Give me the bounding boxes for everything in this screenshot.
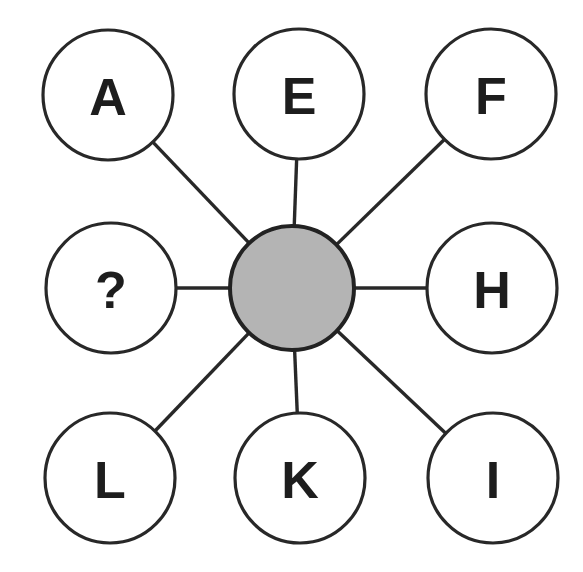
node-a-label: A [89, 68, 127, 126]
edge-center-to-l [154, 331, 251, 432]
node-l[interactable]: L [45, 413, 175, 543]
center-node-circle[interactable] [230, 226, 354, 350]
edge-center-to-f [335, 138, 446, 246]
node-h[interactable]: H [427, 223, 557, 353]
node-q[interactable]: ? [46, 223, 176, 353]
node-a[interactable]: A [43, 30, 173, 160]
node-k[interactable]: K [235, 413, 365, 543]
hub-layer [230, 226, 354, 350]
hub-and-spoke-diagram: AEF?HLKI [0, 0, 583, 572]
diagram-canvas: AEF?HLKI [0, 0, 583, 572]
edge-center-to-a [151, 141, 250, 245]
node-i[interactable]: I [428, 413, 558, 543]
edge-center-to-k [295, 348, 298, 415]
node-q-label: ? [95, 261, 127, 319]
node-e[interactable]: E [234, 29, 364, 159]
node-l-label: L [94, 451, 126, 509]
node-k-label: K [281, 451, 319, 509]
edge-center-to-i [336, 329, 448, 435]
node-e-label: E [282, 67, 317, 125]
node-h-label: H [473, 261, 511, 319]
node-f[interactable]: F [426, 29, 556, 159]
edge-center-to-e [294, 157, 297, 228]
node-f-label: F [475, 67, 507, 125]
node-i-label: I [486, 451, 500, 509]
